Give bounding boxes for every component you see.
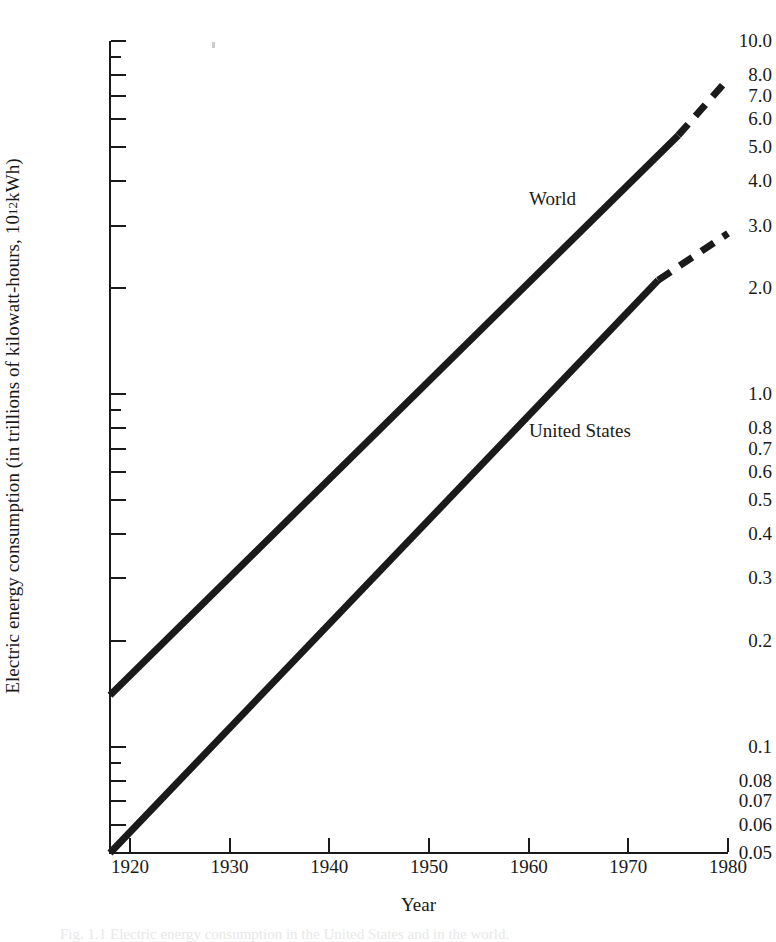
- series-united-states-projection: [658, 233, 728, 280]
- x-tick-1970: [627, 838, 629, 852]
- y-axis-title: Electric energy consumption (in trillion…: [0, 0, 26, 852]
- x-tick-label-1970: 1970: [583, 856, 673, 878]
- figure-caption: Fig. 1.1 Electric energy consumption in …: [60, 926, 760, 942]
- y-tick-3: [111, 225, 126, 227]
- y-tick-0-6: [111, 471, 126, 473]
- x-tick-1980: [727, 838, 729, 852]
- y-tick-0-05: [111, 852, 126, 854]
- y-tick-label-10: 10.0: [672, 30, 776, 52]
- y-tick-label-7: 7.0: [672, 85, 776, 107]
- figure-electric-energy-consumption: Electric energy consumption (in trillion…: [0, 0, 776, 942]
- y-tick-0-08: [111, 780, 126, 782]
- y-tick-label-0-4: 0.4: [672, 523, 776, 545]
- x-tick-1930: [229, 838, 231, 852]
- y-tick-label-0-1: 0.1: [672, 736, 776, 758]
- y-tick-minor-0-09: [111, 762, 121, 764]
- y-tick-0-2: [111, 640, 126, 642]
- y-tick-label-0-5: 0.5: [672, 489, 776, 511]
- y-tick-0-5: [111, 499, 126, 501]
- x-tick-1960: [528, 838, 530, 852]
- y-tick-label-6: 6.0: [672, 108, 776, 130]
- y-tick-label-8: 8.0: [672, 64, 776, 86]
- series-united-states-line: [110, 280, 658, 853]
- y-tick-0-3: [111, 577, 126, 579]
- series-label-world: World: [529, 188, 576, 210]
- y-tick-2: [111, 287, 126, 289]
- y-axis-title-text: Electric energy consumption (in trillion…: [2, 215, 24, 694]
- y-tick-label-0-3: 0.3: [672, 567, 776, 589]
- y-tick-0-8: [111, 427, 126, 429]
- y-tick-label-3: 3.0: [672, 215, 776, 237]
- x-axis-line: [109, 852, 728, 854]
- y-tick-4: [111, 180, 126, 182]
- y-tick-0-1: [111, 746, 126, 748]
- y-tick-label-0-7: 0.7: [672, 438, 776, 460]
- x-tick-label-1920: 1920: [85, 856, 175, 878]
- y-tick-label-1: 1.0: [672, 383, 776, 405]
- y-tick-label-0-6: 0.6: [672, 461, 776, 483]
- y-tick-label-5: 5.0: [672, 136, 776, 158]
- y-tick-1: [111, 393, 126, 395]
- x-tick-label-1940: 1940: [284, 856, 374, 878]
- series-world-line: [110, 135, 678, 695]
- y-axis-title-tail: kWh): [2, 158, 24, 202]
- y-tick-0-06: [111, 824, 126, 826]
- x-tick-label-1960: 1960: [484, 856, 574, 878]
- y-tick-minor-9: [111, 56, 121, 58]
- x-tick-1920: [129, 838, 131, 852]
- y-tick-0-7: [111, 448, 126, 450]
- x-tick-label-1930: 1930: [185, 856, 275, 878]
- y-tick-label-4: 4.0: [672, 170, 776, 192]
- x-tick-1940: [328, 838, 330, 852]
- y-tick-label-0-8: 0.8: [672, 417, 776, 439]
- y-tick-label-0-08: 0.08: [672, 770, 776, 792]
- series-layer: [110, 79, 728, 853]
- x-tick-label-1980: 1980: [683, 856, 773, 878]
- series-label-united-states: United States: [529, 420, 631, 442]
- y-tick-5: [111, 146, 126, 148]
- y-tick-8: [111, 74, 126, 76]
- y-tick-label-0-07: 0.07: [672, 790, 776, 812]
- x-tick-1950: [428, 838, 430, 852]
- y-tick-6: [111, 118, 126, 120]
- x-axis-title: Year: [110, 894, 727, 916]
- x-tick-label-1950: 1950: [384, 856, 474, 878]
- y-tick-7: [111, 95, 126, 97]
- y-tick-label-2: 2.0: [672, 277, 776, 299]
- y-tick-minor-0-9: [111, 409, 121, 411]
- y-tick-label-0-06: 0.06: [672, 814, 776, 836]
- y-tick-label-0-2: 0.2: [672, 630, 776, 652]
- scan-artifact-speck: [212, 42, 215, 48]
- y-tick-0-4: [111, 533, 126, 535]
- y-tick-10: [111, 40, 126, 42]
- y-tick-0-07: [111, 800, 126, 802]
